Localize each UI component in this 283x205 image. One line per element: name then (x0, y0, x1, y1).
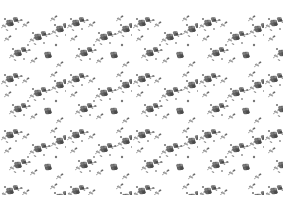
floral-pattern-image: Grayscale scattered floral wallpaper pat… (0, 0, 283, 205)
floral-pattern (0, 15, 283, 195)
